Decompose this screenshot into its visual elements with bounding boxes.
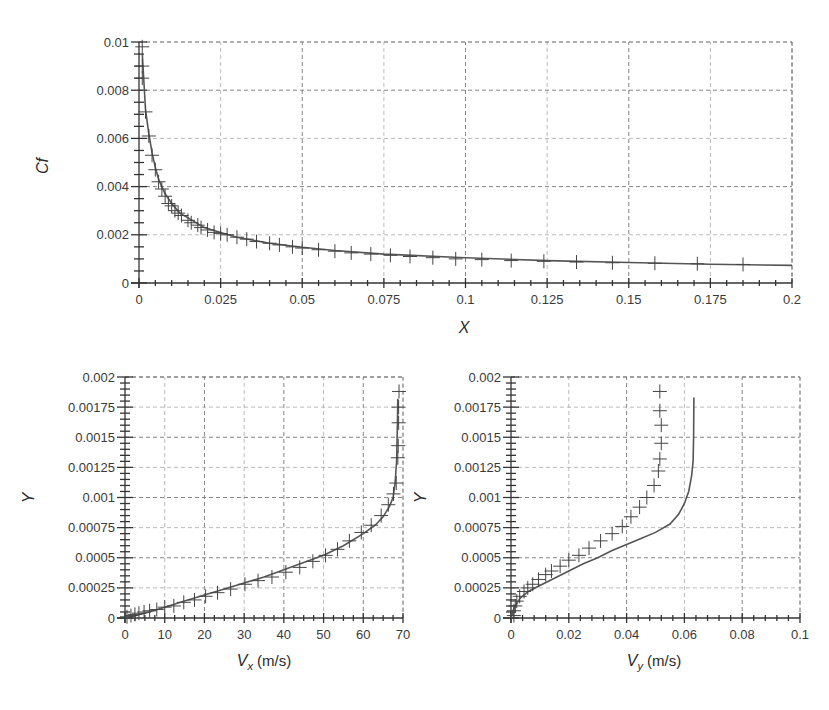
y-tick-label: 0 (122, 276, 129, 291)
y-tick-label: 0.002 (468, 370, 501, 385)
cf-grid (139, 42, 792, 283)
x-tick-label: 0.1 (791, 627, 809, 642)
plus-marker (392, 400, 406, 414)
plus-marker (426, 251, 440, 265)
x-tick-label: 0.04 (614, 627, 639, 642)
y-tick-label: 0 (108, 611, 115, 626)
plus-marker (148, 163, 162, 177)
x-tick-label: 0.08 (730, 627, 755, 642)
x-tick-label: 30 (237, 627, 251, 642)
cf-x-tick-labels: 00.0250.050.0750.10.1250.150.1750.2 (135, 292, 801, 307)
plus-marker (392, 416, 406, 430)
y-tick-label: 0.00125 (68, 460, 115, 475)
plus-marker (653, 404, 667, 418)
x-tick-label: 0.15 (616, 292, 641, 307)
plus-marker (272, 238, 286, 252)
plus-marker (188, 593, 202, 607)
plus-marker (690, 257, 704, 271)
y-tick-label: 0.00175 (68, 400, 115, 415)
x-tick-label: 0.025 (204, 292, 237, 307)
x-tick-label: 0.2 (783, 292, 801, 307)
x-tick-label: 0.175 (694, 292, 727, 307)
plus-marker (364, 518, 378, 532)
vy-x-axis-label: Vy (m/s) (627, 652, 682, 672)
y-tick-label: 0.00025 (454, 580, 501, 595)
plus-marker (537, 254, 551, 268)
plus-marker (736, 257, 750, 271)
plus-marker (389, 476, 403, 490)
vx-y-axis-label: Y (20, 491, 37, 503)
plus-marker (171, 206, 185, 220)
plus-marker (158, 600, 172, 614)
vy-plot: 00.020.040.060.080.1 00.000250.00050.000… (412, 370, 809, 673)
plus-marker (161, 196, 175, 210)
cf-plot: 00.0250.050.0750.10.1250.150.1750.2 00.0… (34, 35, 801, 337)
plus-marker (653, 452, 667, 466)
plus-marker (640, 491, 654, 505)
computed-curve (142, 54, 792, 265)
vx-x-tick-labels: 010203040506070 (121, 627, 410, 642)
cf-x-axis-label: X (458, 319, 471, 336)
plus-marker (155, 182, 169, 196)
plus-marker (135, 59, 149, 73)
plus-marker (392, 384, 406, 398)
cf-y-axis-label: Cf (34, 156, 51, 174)
vy-y-tick-labels: 00.000250.00050.000750.0010.001250.00150… (454, 370, 501, 626)
plus-marker (240, 232, 254, 246)
computed-curve (125, 399, 398, 618)
plus-marker (251, 574, 265, 588)
vy-y-axis-label: Y (412, 491, 429, 503)
y-tick-label: 0.001 (468, 490, 501, 505)
x-tick-label: 0 (121, 627, 128, 642)
vx-axes (117, 377, 403, 623)
plus-marker (167, 599, 181, 613)
x-tick-label: 20 (197, 627, 211, 642)
vx-x-axis-label-unit: (m/s) (253, 652, 291, 669)
plus-marker (128, 607, 142, 621)
plus-marker (582, 541, 596, 555)
plus-marker (403, 249, 417, 263)
plus-marker (306, 554, 320, 568)
cf-axes (131, 42, 792, 288)
plus-marker (383, 248, 397, 262)
vx-grid (125, 377, 403, 618)
y-tick-label: 0.00075 (454, 520, 501, 535)
plus-marker (224, 582, 238, 596)
vx-x-axis-label: Vx (m/s) (237, 652, 292, 672)
plus-marker (605, 527, 619, 541)
cf-y-tick-labels: 00.0020.0040.0060.0080.01 (96, 35, 129, 291)
plus-marker (319, 548, 333, 562)
vy-grid (511, 377, 800, 618)
y-tick-label: 0.01 (104, 35, 129, 50)
y-tick-label: 0.0005 (75, 550, 115, 565)
y-tick-label: 0.00025 (68, 580, 115, 595)
plus-marker (135, 71, 149, 85)
plus-marker (504, 254, 518, 268)
plus-marker (214, 227, 228, 241)
x-tick-label: 0.05 (290, 292, 315, 307)
x-tick-label: 70 (396, 627, 410, 642)
plus-marker (615, 519, 629, 533)
plus-marker (344, 246, 358, 260)
cf-series (135, 40, 792, 272)
plus-marker (177, 595, 191, 609)
y-tick-label: 0.0015 (461, 430, 501, 445)
plus-marker (199, 589, 213, 603)
y-tick-label: 0.002 (82, 370, 115, 385)
vx-plot: 010203040506070 00.000250.00050.000750.0… (20, 370, 410, 673)
x-tick-label: 0 (507, 627, 514, 642)
y-tick-label: 0.001 (82, 490, 115, 505)
y-tick-label: 0.00175 (454, 400, 501, 415)
plus-marker (449, 252, 463, 266)
chart-figure: 00.0250.050.0750.10.1250.150.1750.2 00.0… (0, 0, 829, 710)
y-tick-label: 0.006 (96, 131, 129, 146)
plus-marker (263, 236, 277, 250)
plus-marker (150, 603, 164, 617)
x-tick-label: 0.1 (456, 292, 474, 307)
plus-marker (142, 129, 156, 143)
plus-marker (312, 243, 326, 257)
plus-marker (207, 225, 221, 239)
y-tick-label: 0.004 (96, 179, 129, 194)
plus-marker (364, 247, 378, 261)
plus-marker (295, 241, 309, 255)
